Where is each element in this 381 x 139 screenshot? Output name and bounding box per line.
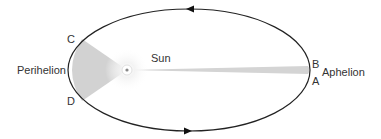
arrow-right-icon xyxy=(184,128,192,135)
label-b: B xyxy=(312,59,319,70)
arrow-left-icon xyxy=(186,6,194,13)
label-perihelion: Perihelion xyxy=(17,65,66,76)
label-aphelion: Aphelion xyxy=(322,67,365,78)
sun-core xyxy=(125,68,128,71)
label-sun: Sun xyxy=(151,53,171,64)
label-c: C xyxy=(67,34,75,45)
label-a: A xyxy=(312,76,319,87)
label-d: D xyxy=(67,96,75,107)
aphelion-swept-area xyxy=(127,66,310,74)
